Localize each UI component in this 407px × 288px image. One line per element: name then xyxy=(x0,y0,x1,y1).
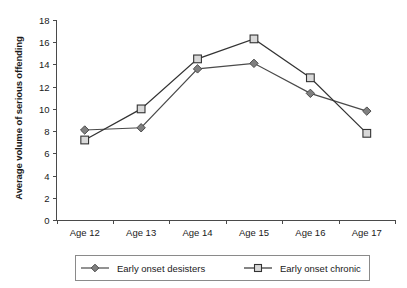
y-tick-label: 10 xyxy=(39,104,50,115)
legend-label-2: Early onset chronic xyxy=(280,263,361,274)
y-tick-label: 14 xyxy=(39,59,50,70)
data-point-marker-diamond xyxy=(363,107,371,115)
data-point-marker-square xyxy=(363,129,371,137)
y-tick-label: 0 xyxy=(44,215,49,226)
y-tick-label: 18 xyxy=(39,15,50,26)
series-line-2 xyxy=(85,39,367,140)
data-point-marker-square xyxy=(137,105,145,113)
x-axis-tick-labels: Age 12Age 13Age 14Age 15Age 16Age 17 xyxy=(70,227,382,238)
data-point-marker-square xyxy=(250,35,258,43)
data-point-marker-square xyxy=(81,136,89,144)
series-markers-group xyxy=(81,35,371,144)
legend: Early onset desistersEarly onset chronic xyxy=(81,263,361,274)
x-tick-label: Age 12 xyxy=(70,227,100,238)
x-tick-label: Age 17 xyxy=(352,227,382,238)
x-tick-label: Age 13 xyxy=(126,227,156,238)
x-tick-label: Age 16 xyxy=(295,227,325,238)
y-tick-label: 2 xyxy=(44,193,49,204)
data-point-marker-square xyxy=(194,55,202,63)
y-tick-label: 16 xyxy=(39,37,50,48)
line-chart-plot: 024681012141618 Age 12Age 13Age 14Age 15… xyxy=(0,0,407,288)
y-tick-label: 8 xyxy=(44,126,49,137)
legend-label-1: Early onset desisters xyxy=(117,263,205,274)
y-tick-label: 4 xyxy=(44,171,49,182)
y-axis-ticks xyxy=(53,21,57,221)
data-point-marker-diamond xyxy=(250,59,258,67)
data-point-marker-diamond xyxy=(81,126,89,134)
y-tick-label: 6 xyxy=(44,148,49,159)
data-point-marker-diamond xyxy=(91,264,99,272)
y-axis-tick-labels: 024681012141618 xyxy=(39,15,50,226)
y-tick-label: 12 xyxy=(39,82,50,93)
data-point-marker-square xyxy=(307,74,315,82)
data-point-marker-diamond xyxy=(306,89,314,97)
chart-container: Average volume of serious offending 0246… xyxy=(0,0,407,288)
data-point-marker-square xyxy=(255,265,262,272)
series-line-1 xyxy=(85,63,367,130)
x-tick-label: Age 14 xyxy=(182,227,212,238)
y-axis-title: Average volume of serious offending xyxy=(10,8,28,228)
x-tick-label: Age 15 xyxy=(239,227,269,238)
series-lines-group xyxy=(85,39,367,140)
